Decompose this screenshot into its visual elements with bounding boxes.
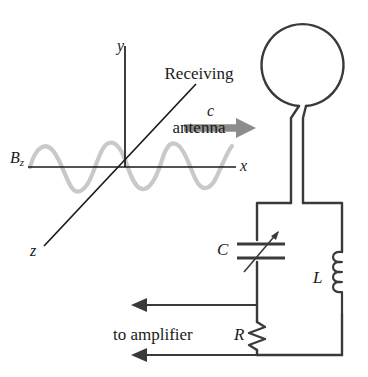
z-axis-label: z <box>30 243 36 260</box>
magnetic-field-label: Bz <box>10 150 24 169</box>
antenna-caption-line-2: antenna <box>144 119 254 137</box>
inductor-symbol <box>333 252 342 314</box>
antenna-caption-line-1: Receiving <box>144 65 254 83</box>
y-axis-label: y <box>117 38 124 55</box>
resistor-symbol <box>249 322 265 350</box>
inductor-label: L <box>313 269 322 287</box>
circuit-loop <box>257 203 342 355</box>
magnetic-field-label-base: B <box>10 149 20 166</box>
amplifier-output-label: to amplifier <box>113 326 193 344</box>
magnetic-field-label-subscript: z <box>20 156 24 168</box>
capacitor-label: C <box>217 241 228 259</box>
figure-root: y x z Bz c Receiving antenna C L R to am… <box>0 0 368 377</box>
resistor-label: R <box>234 326 244 344</box>
variable-capacitor-arrow <box>244 231 279 272</box>
antenna-caption: Receiving antenna <box>144 29 254 173</box>
loop-antenna <box>261 24 343 203</box>
capacitor-symbol <box>237 231 285 272</box>
